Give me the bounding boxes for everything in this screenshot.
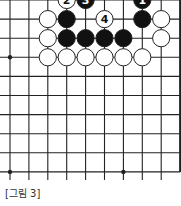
- white-stone: [77, 49, 94, 66]
- move-number-label: 4: [101, 13, 109, 26]
- board-grid: [0, 0, 180, 180]
- white-stone-disc: [153, 30, 170, 47]
- white-stone: [39, 30, 56, 47]
- white-stone-disc: [39, 49, 56, 66]
- white-stone-disc: [134, 49, 151, 66]
- star-point: [8, 55, 12, 59]
- black-stone: [134, 11, 151, 28]
- white-stone: [96, 49, 113, 66]
- black-stone: 1: [134, 0, 151, 9]
- figure-caption: [그림 3]: [5, 188, 40, 200]
- black-stone: [58, 11, 75, 28]
- white-stone: [115, 49, 132, 66]
- black-stone: [77, 30, 94, 47]
- white-stone-disc: [115, 49, 132, 66]
- white-stone-disc: [96, 49, 113, 66]
- move-number-label: 1: [138, 0, 146, 7]
- black-stone: [96, 30, 113, 47]
- black-stone: [58, 30, 75, 47]
- black-stone-disc: [58, 30, 75, 47]
- white-stone-disc: [39, 11, 56, 28]
- white-stone-disc: [39, 30, 56, 47]
- black-stone: 3: [77, 0, 94, 9]
- move-number-label: 3: [82, 0, 90, 7]
- white-stone: [39, 49, 56, 66]
- white-stone: [39, 11, 56, 28]
- white-stone: 2: [58, 0, 75, 9]
- white-stone: [134, 49, 151, 66]
- star-point: [121, 170, 125, 174]
- black-stone-disc: [58, 11, 75, 28]
- black-stone-disc: [115, 30, 132, 47]
- white-stone-disc: [58, 49, 75, 66]
- go-board: 2314: [0, 0, 181, 182]
- white-stone-disc: [77, 49, 94, 66]
- white-stone: 4: [96, 11, 113, 28]
- black-stone-disc: [134, 11, 151, 28]
- black-stone-disc: [77, 30, 94, 47]
- black-stone-disc: [96, 30, 113, 47]
- black-stone: [115, 30, 132, 47]
- white-stone: [58, 49, 75, 66]
- move-number-label: 2: [63, 0, 71, 7]
- white-stone-disc: [153, 11, 170, 28]
- white-stone: [153, 11, 170, 28]
- white-stone: [153, 30, 170, 47]
- star-point: [8, 170, 12, 174]
